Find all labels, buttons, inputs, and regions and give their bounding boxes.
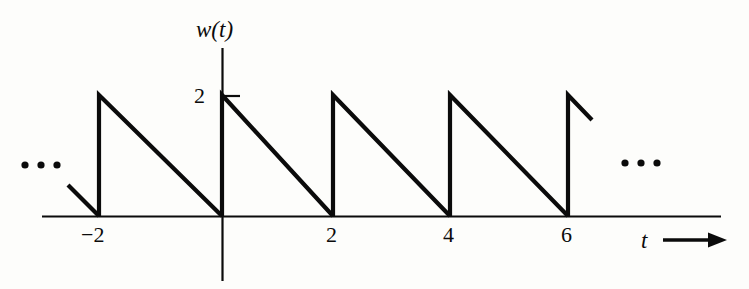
figure-canvas: w(t) 2 t −2 2 4 6 bbox=[0, 0, 749, 289]
waveform-trace bbox=[68, 95, 592, 216]
x-axis-title: t bbox=[641, 229, 647, 252]
waveform-segment-cycle-2 bbox=[333, 95, 450, 216]
y-axis-title: w(t) bbox=[196, 18, 233, 41]
x-tick-label-4: 4 bbox=[443, 224, 454, 246]
waveform-segment-left-partial bbox=[68, 185, 99, 216]
x-tick-label-minus-2: −2 bbox=[81, 224, 104, 246]
x-tick-label-2: 2 bbox=[326, 224, 337, 246]
x-tick-label-6: 6 bbox=[561, 224, 572, 246]
right-ellipsis-icon bbox=[621, 159, 660, 166]
sawtooth-chart-svg bbox=[0, 0, 749, 289]
left-ellipsis-icon bbox=[21, 161, 60, 168]
waveform-segment-cycle-0 bbox=[222, 95, 333, 216]
x-axis-arrow bbox=[663, 233, 727, 248]
y-tick-label-2: 2 bbox=[194, 85, 205, 107]
waveform-segment-cycle-m2 bbox=[99, 95, 222, 216]
waveform-segment-cycle-4 bbox=[450, 95, 568, 216]
waveform-segment-cycle-6-partial bbox=[568, 95, 592, 216]
